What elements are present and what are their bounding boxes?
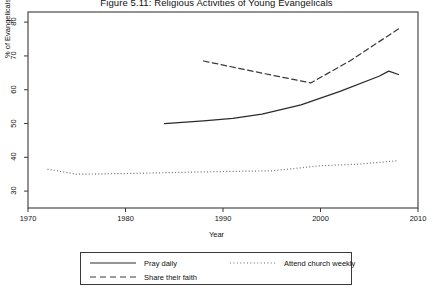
legend-swatch-dashed — [89, 272, 137, 282]
legend-label-share-their-faith: Share their faith — [144, 273, 197, 282]
plot-series-layer — [48, 29, 399, 174]
legend: Pray daily Share their faith Attend chur… — [80, 252, 352, 285]
plot-tickmarks — [24, 22, 418, 212]
legend-label-attend-church-weekly: Attend church weekly — [284, 259, 355, 268]
series-line-pray-daily — [165, 71, 399, 123]
figure-container: Figure 5.11: Religious Activities of You… — [0, 0, 433, 291]
legend-label-pray-daily: Pray daily — [144, 259, 177, 268]
legend-swatch-dotted — [229, 258, 277, 268]
series-line-attend-church-weekly — [48, 161, 399, 175]
legend-item-pray-daily: Pray daily — [89, 256, 177, 270]
legend-item-attend-church-weekly: Attend church weekly — [229, 256, 355, 270]
plot-border — [28, 12, 418, 208]
plot-area — [0, 0, 433, 291]
plot-frame — [28, 12, 418, 208]
series-line-share-their-faith — [204, 29, 399, 83]
legend-swatch-solid — [89, 258, 137, 268]
legend-item-share-their-faith: Share their faith — [89, 270, 197, 284]
